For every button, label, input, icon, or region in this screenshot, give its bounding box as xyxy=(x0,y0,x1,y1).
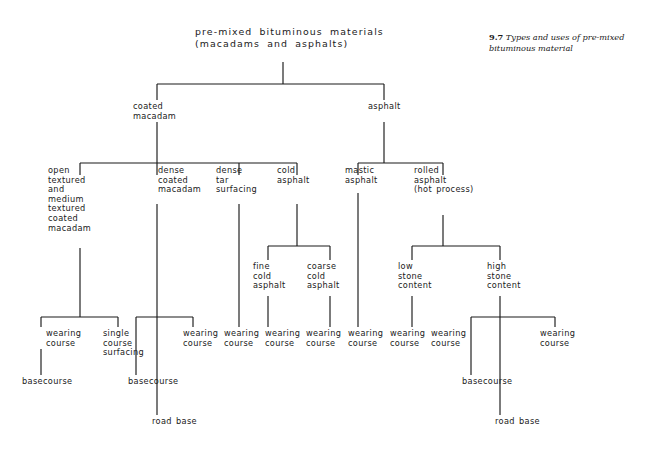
node-wearing-course-3: wearing course xyxy=(224,329,259,348)
node-road-base-1: road base xyxy=(152,417,197,427)
caption-number: 9.7 xyxy=(489,32,503,42)
node-wearing-course-4: wearing course xyxy=(265,329,300,348)
node-coated-macadam: coated macadam xyxy=(133,102,176,121)
node-wearing-course-2: wearing course xyxy=(183,329,218,348)
node-road-base-2: road base xyxy=(495,417,540,427)
figure-caption: 9.7 Types and uses of pre-mixed bitumino… xyxy=(489,32,641,55)
node-wearing-course-1: wearing course xyxy=(46,329,81,348)
node-asphalt: asphalt xyxy=(368,102,401,112)
node-fine-cold-asphalt: fine cold asphalt xyxy=(253,262,286,291)
node-basecourse-3: basecourse xyxy=(462,377,512,387)
node-open-medium-textured-coated-macadam: open textured and medium textured coated… xyxy=(48,166,91,233)
node-dense-coated-macadam: dense coated macadam xyxy=(158,166,201,195)
node-high-stone-content: high stone content xyxy=(487,262,521,291)
node-low-stone-content: low stone content xyxy=(398,262,432,291)
tree-connectors xyxy=(0,0,656,454)
node-mastic-asphalt: mastic asphalt xyxy=(345,166,378,185)
node-basecourse-2: basecourse xyxy=(128,377,178,387)
node-title: pre-mixed bituminous materials (macadams… xyxy=(195,26,475,51)
node-cold-asphalt: cold asphalt xyxy=(277,166,310,185)
node-wearing-course-7: wearing course xyxy=(390,329,425,348)
node-single-course-surfacing: single course surfacing xyxy=(103,329,144,358)
node-wearing-course-6: wearing course xyxy=(348,329,383,348)
node-dense-tar-surfacing: dense tar surfacing xyxy=(216,166,257,195)
node-coarse-cold-asphalt: coarse cold asphalt xyxy=(307,262,340,291)
node-rolled-asphalt: rolled asphalt (hot process) xyxy=(414,166,474,195)
node-wearing-course-5: wearing course xyxy=(306,329,341,348)
node-wearing-course-9: wearing course xyxy=(540,329,575,348)
node-basecourse-1: basecourse xyxy=(22,377,72,387)
caption-text: Types and uses of pre-mixed bituminous m… xyxy=(489,32,624,53)
figure-canvas: pre-mixed bituminous materials (macadams… xyxy=(0,0,656,454)
node-wearing-course-8: wearing course xyxy=(431,329,466,348)
